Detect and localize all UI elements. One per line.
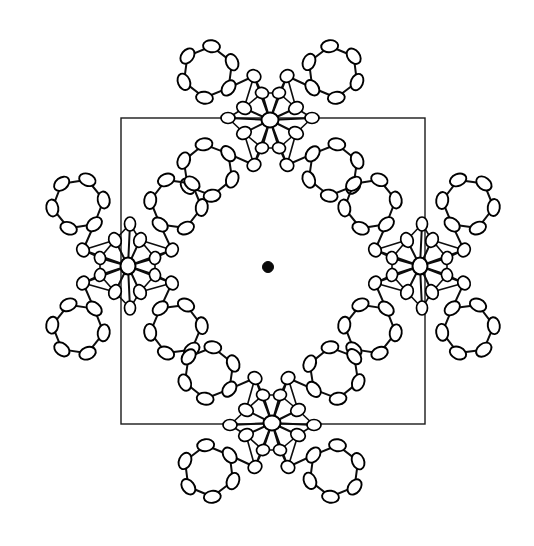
ligand-atom-8 [125,217,136,231]
cell-center-atom [263,262,274,273]
metal-center-atom [121,258,136,275]
ortep-packing-figure [0,0,534,546]
metal-center-atom [264,416,281,431]
ortep-canvas [0,0,534,546]
metal-center-atom [262,113,279,128]
figure-background [0,0,534,546]
ligand-atom-9 [305,113,319,124]
ligand-atom-8 [417,217,428,231]
ligand-atom-8 [221,113,235,124]
ligand-atom-9 [417,301,428,315]
ligand-atom-9 [125,301,136,315]
ligand-atom-9 [223,420,237,431]
metal-center-atom [413,258,428,275]
ligand-atom-8 [307,420,321,431]
